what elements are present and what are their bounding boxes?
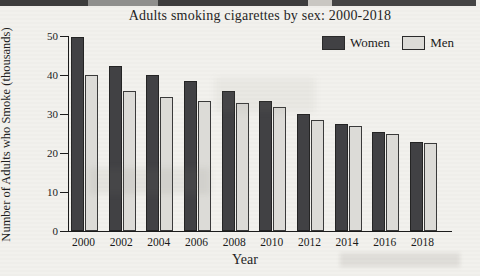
legend-swatch-women: [322, 36, 345, 50]
y-tick-mark: [60, 36, 68, 37]
bar-men-2014: [349, 126, 362, 231]
bar-men-2018: [424, 143, 437, 231]
y-tick-mark: [60, 153, 68, 154]
bar-women-2008: [222, 91, 235, 231]
x-tick-label: 2012: [288, 236, 330, 248]
bar-women-2000: [71, 37, 84, 232]
y-tick-label: 30: [32, 109, 58, 120]
bar-men-2008: [236, 103, 249, 231]
bar-men-2004: [160, 97, 173, 231]
x-tick-label: 2004: [138, 236, 180, 248]
x-tick-label: 2008: [213, 236, 255, 248]
bar-men-2010: [273, 107, 286, 231]
y-tick-mark: [60, 114, 68, 115]
x-tick-label: 2014: [326, 236, 368, 248]
bar-women-2012: [297, 114, 310, 231]
y-tick-label: 50: [32, 31, 58, 42]
bar-women-2010: [259, 101, 272, 231]
legend-swatch-men: [402, 36, 425, 50]
bar-men-2000: [85, 75, 98, 231]
y-axis-label: Number of Adults who Smoke (thousands): [0, 25, 14, 245]
bar-women-2014: [335, 124, 348, 231]
legend-label-women: Women: [350, 35, 390, 51]
y-tick-mark: [60, 231, 68, 232]
x-axis-line: [68, 231, 452, 232]
y-tick-label: 20: [32, 148, 58, 159]
x-tick-label: 2018: [401, 236, 443, 248]
legend-label-men: Men: [430, 35, 454, 51]
x-tick-label: 2006: [175, 236, 217, 248]
x-tick-label: 2010: [251, 236, 293, 248]
scan-edge-artifact: [0, 0, 476, 6]
bar-men-2016: [386, 134, 399, 231]
legend: Women Men: [322, 36, 454, 50]
y-tick-mark: [60, 192, 68, 193]
y-axis-line: [68, 36, 69, 232]
x-tick-label: 2000: [63, 236, 105, 248]
y-tick-label: 10: [32, 187, 58, 198]
y-tick-label: 0: [32, 226, 58, 237]
bar-women-2002: [109, 66, 122, 231]
y-tick-label: 40: [32, 70, 58, 81]
x-tick-label: 2016: [364, 236, 406, 248]
bar-women-2004: [146, 75, 159, 231]
bar-men-2012: [311, 120, 324, 231]
bar-women-2006: [184, 81, 197, 231]
bar-men-2006: [198, 101, 211, 231]
y-tick-mark: [60, 75, 68, 76]
x-axis-title: Year: [40, 252, 450, 268]
bar-men-2002: [123, 91, 136, 231]
bar-women-2016: [372, 132, 385, 231]
x-tick-label: 2002: [100, 236, 142, 248]
chart-title: Adults smoking cigarettes by sex: 2000-2…: [40, 8, 480, 24]
bar-women-2018: [410, 142, 423, 231]
